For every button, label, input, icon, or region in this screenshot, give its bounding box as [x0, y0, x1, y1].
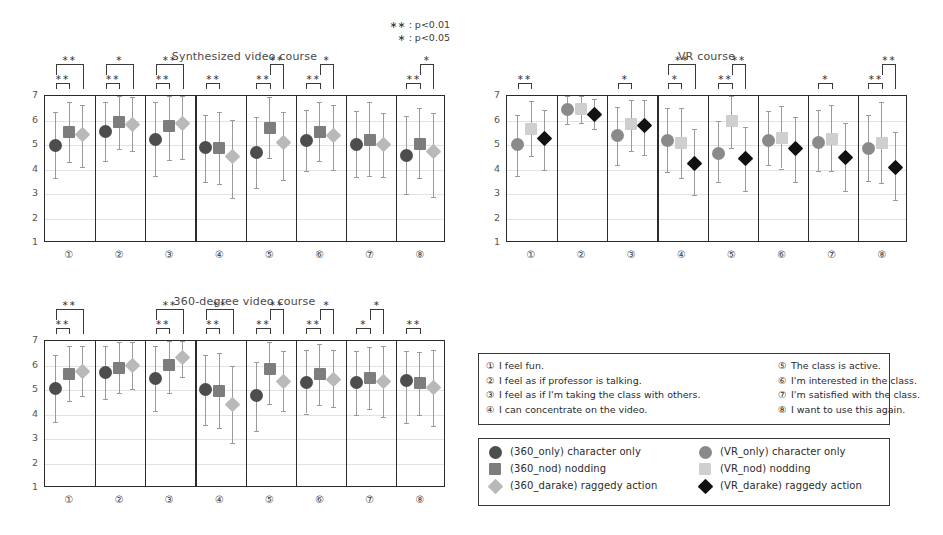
significance-stars: ∗∗	[55, 55, 83, 63]
significance-bracket-bar	[718, 83, 732, 84]
gridline	[507, 219, 906, 220]
x-axis-tick-label-5: ⑤	[715, 249, 749, 260]
error-bar-cap-lower	[167, 393, 172, 394]
error-bar-cap-upper	[267, 342, 272, 343]
significance-bracket-leg	[169, 83, 170, 89]
error-bar-cap-lower	[153, 411, 158, 412]
significance-bracket-leg	[106, 64, 107, 75]
significance-stars: ∗∗	[861, 74, 889, 82]
significance-stars: ∗∗	[199, 319, 227, 327]
error-bar-cap-lower	[665, 172, 670, 173]
error-bar-cap-upper	[665, 108, 670, 109]
data-point-circle	[812, 136, 825, 149]
significance-stars: ∗	[105, 55, 133, 63]
gridline	[45, 439, 444, 440]
significance-stars: ∗∗	[875, 55, 903, 63]
error-bar-cap-upper	[167, 96, 172, 97]
error-bar-cap-upper	[331, 350, 336, 351]
marker-legend-glyph	[699, 446, 712, 459]
marker-legend-item: (VR_nod) nodding	[699, 462, 881, 476]
error-bar-cap-upper	[843, 123, 848, 124]
x-axis-tick-label-8: ⑧	[403, 494, 437, 505]
error-bar-cap-upper	[130, 97, 135, 98]
marker-legend-glyph	[487, 478, 503, 494]
data-point-square	[113, 362, 125, 374]
significance-bracket-bar	[56, 328, 70, 329]
x-axis-tick-label-2: ②	[102, 249, 136, 260]
x-axis-tick-label-1: ①	[514, 249, 548, 260]
question-number: ④	[486, 403, 499, 417]
error-bar-cap-upper	[679, 108, 684, 109]
y-axis-tick-label: 3	[22, 432, 38, 443]
significance-stars: ∗∗	[399, 74, 427, 82]
marker-legend-swatch-diamond	[699, 480, 711, 492]
y-axis-tick-label: 4	[484, 163, 500, 174]
marker-legend-box: (360_only) character only(VR_only) chara…	[478, 438, 890, 506]
error-bar-cap-upper	[117, 96, 122, 97]
error-bar-cap-upper	[230, 120, 235, 121]
significance-bracket-bar	[618, 83, 632, 84]
significance-bracket-leg	[283, 64, 284, 89]
significance-bracket-leg	[668, 83, 669, 89]
error-bar-cap-lower	[317, 405, 322, 406]
error-bar-cap-upper	[629, 100, 634, 101]
significance-stars: ∗	[312, 300, 340, 308]
question-legend-item: ⑧I want to use this again.	[778, 403, 920, 417]
significance-bracket-leg	[420, 328, 421, 334]
error-bar-cap-lower	[281, 411, 286, 412]
error-bar-cap-upper	[103, 346, 108, 347]
marker-legend-swatch-diamond	[489, 480, 501, 492]
error-bar-cap-lower	[130, 151, 135, 152]
error-bar-cap-lower	[67, 162, 72, 163]
significance-stars: ∗∗	[149, 319, 177, 327]
significance-bracket-bar	[356, 328, 370, 329]
chart-360-degree-video-course: 360-degree video course1234567①②③④⑤⑥⑦⑧∗∗…	[28, 285, 468, 515]
plot-area	[44, 95, 445, 242]
error-bar	[406, 351, 407, 423]
gridline	[507, 170, 906, 171]
error-bar-cap-lower	[381, 417, 386, 418]
error-bar-cap-lower	[180, 159, 185, 160]
error-bar-cap-upper	[431, 113, 436, 114]
marker-legend-label: (VR_darake) raggedy action	[720, 479, 862, 493]
y-axis-tick-label: 7	[22, 334, 38, 345]
question-text: I'm interested in the class.	[791, 375, 917, 386]
y-axis-tick-label: 2	[22, 212, 38, 223]
panel-separator	[246, 96, 247, 241]
error-bar-cap-upper	[381, 346, 386, 347]
error-bar-cap-lower	[779, 169, 784, 170]
data-point-square	[625, 118, 637, 130]
data-point-square	[264, 363, 276, 375]
data-point-square	[213, 142, 225, 154]
significance-bracket-leg	[233, 309, 234, 334]
significance-bracket-leg	[882, 83, 883, 89]
significance-stars: ∗∗	[55, 300, 83, 308]
significance-stars: ∗∗	[155, 300, 183, 308]
x-axis-tick-label-4: ④	[202, 249, 236, 260]
significance-bracket-bar	[868, 83, 882, 84]
error-bar-cap-lower	[515, 176, 520, 177]
significance-bracket-bar	[206, 328, 220, 329]
significance-bracket-leg	[56, 309, 57, 320]
data-point-circle	[300, 376, 313, 389]
marker-legend-swatch-square	[699, 463, 711, 475]
data-point-square	[414, 138, 426, 150]
x-axis-tick-label-7: ⑦	[353, 494, 387, 505]
data-point-circle	[300, 134, 313, 147]
data-point-square	[163, 359, 175, 371]
y-axis-tick-label: 3	[22, 187, 38, 198]
error-bar-cap-lower	[431, 426, 436, 427]
data-point-square	[264, 122, 276, 134]
data-point-square	[776, 132, 788, 144]
significance-bracket-leg	[333, 64, 334, 89]
data-point-square	[364, 372, 376, 384]
error-bar-cap-upper	[779, 106, 784, 107]
y-axis-tick-label: 3	[484, 187, 500, 198]
error-bar-cap-lower	[629, 151, 634, 152]
significance-stars: ∗∗	[98, 74, 126, 82]
significance-bracket-leg	[695, 64, 696, 89]
significance-bracket-leg	[56, 328, 57, 334]
significance-bracket-leg	[219, 83, 220, 89]
significance-bracket-bar	[818, 83, 832, 84]
significance-bracket-leg	[156, 83, 157, 89]
